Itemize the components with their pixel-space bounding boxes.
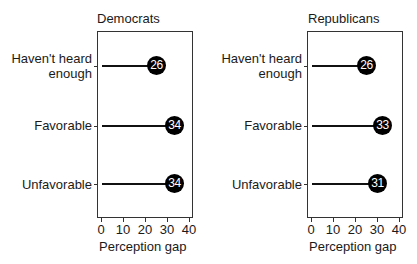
data-point: 33 <box>373 116 392 135</box>
x-tick-label: 20 <box>343 222 367 237</box>
label-line: enough <box>0 66 92 81</box>
x-axis-label: Perception gap <box>309 239 396 254</box>
y-label-havent-heard: Haven't heard enough <box>0 51 92 81</box>
x-tick-label: 0 <box>89 222 113 237</box>
y-label-havent-heard: Haven't heard enough <box>207 51 302 81</box>
x-tick-label: 10 <box>321 222 345 237</box>
y-label-unfavorable: Unfavorable <box>207 177 302 192</box>
data-point: 34 <box>165 174 184 193</box>
x-tick-label: 30 <box>365 222 389 237</box>
x-tick-label: 0 <box>299 222 323 237</box>
x-tick-label: 30 <box>155 222 179 237</box>
label-line: Haven't heard <box>0 51 92 66</box>
label-line: Unfavorable <box>207 177 302 192</box>
y-tick <box>94 66 97 67</box>
y-label-favorable: Favorable <box>0 118 92 133</box>
label-line: Favorable <box>0 118 92 133</box>
data-point: 26 <box>147 56 166 75</box>
panel-republicans: Republicans Haven't heard enough 26 Favo… <box>207 0 417 264</box>
x-tick-label: 40 <box>387 222 411 237</box>
y-label-unfavorable: Unfavorable <box>0 177 92 192</box>
data-point: 31 <box>368 174 387 193</box>
x-tick-label: 40 <box>177 222 201 237</box>
y-tick <box>304 184 307 185</box>
panel-title: Democrats <box>97 11 160 26</box>
data-point: 26 <box>357 56 376 75</box>
x-tick-label: 10 <box>111 222 135 237</box>
y-tick <box>94 126 97 127</box>
label-line: Unfavorable <box>0 177 92 192</box>
y-label-favorable: Favorable <box>207 118 302 133</box>
data-point: 34 <box>165 116 184 135</box>
panel-democrats: Democrats Haven't heard enough 26 Favora… <box>0 0 207 264</box>
y-tick <box>304 66 307 67</box>
y-tick <box>304 126 307 127</box>
y-tick <box>94 184 97 185</box>
panel-title: Republicans <box>308 11 380 26</box>
label-line: enough <box>207 66 302 81</box>
x-axis-label: Perception gap <box>99 239 186 254</box>
label-line: Haven't heard <box>207 51 302 66</box>
x-tick-label: 20 <box>133 222 157 237</box>
label-line: Favorable <box>207 118 302 133</box>
